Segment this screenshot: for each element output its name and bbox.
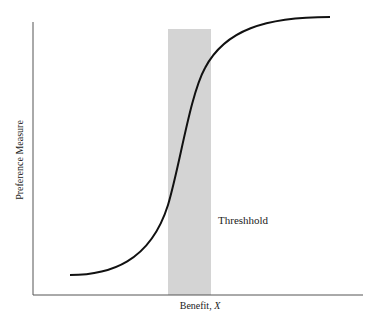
chart: Threshhold Benefit, X Preference Measure	[0, 0, 385, 317]
x-axis-label-var: X	[213, 300, 221, 311]
x-axis-label: Benefit, X	[180, 300, 221, 311]
y-axis-label: Preference Measure	[14, 120, 25, 200]
x-axis-label-prefix: Benefit,	[180, 300, 214, 311]
threshold-label: Threshhold	[218, 214, 269, 226]
